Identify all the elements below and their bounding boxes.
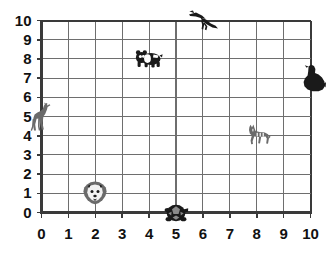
x-axis-tick-label: 6 (191, 226, 215, 241)
y-axis-tick-label: 5 (4, 109, 32, 124)
grid-lines (42, 21, 311, 213)
x-axis-tick-label: 3 (110, 226, 134, 241)
y-axis-tick-label: 1 (4, 185, 32, 200)
x-axis-tick-label: 7 (218, 226, 242, 241)
animal-coordinate-grid-chart: 012345678910 012345678910 (0, 0, 333, 258)
x-axis-tick-label: 10 (299, 226, 323, 241)
y-axis-tick-label: 7 (4, 70, 32, 85)
x-axis-tick-label: 1 (56, 226, 80, 241)
y-axis-tick-label: 10 (4, 13, 32, 28)
x-axis-tick-label: 4 (137, 226, 161, 241)
y-axis-tick-label: 6 (4, 89, 32, 104)
x-axis-tick-label: 5 (164, 226, 188, 241)
y-axis-tick-label: 9 (4, 32, 32, 47)
tick-marks (37, 21, 311, 218)
y-axis-tick-label: 4 (4, 128, 32, 143)
grid-plot-area (0, 0, 333, 258)
x-axis-tick-label: 8 (245, 226, 269, 241)
y-axis-tick-label: 3 (4, 147, 32, 162)
y-axis-tick-label: 2 (4, 166, 32, 181)
y-axis-tick-label: 8 (4, 51, 32, 66)
y-axis-tick-label: 0 (4, 205, 32, 220)
x-axis-tick-label: 9 (272, 226, 296, 241)
x-axis-tick-label: 0 (30, 226, 54, 241)
x-axis-tick-label: 2 (83, 226, 107, 241)
